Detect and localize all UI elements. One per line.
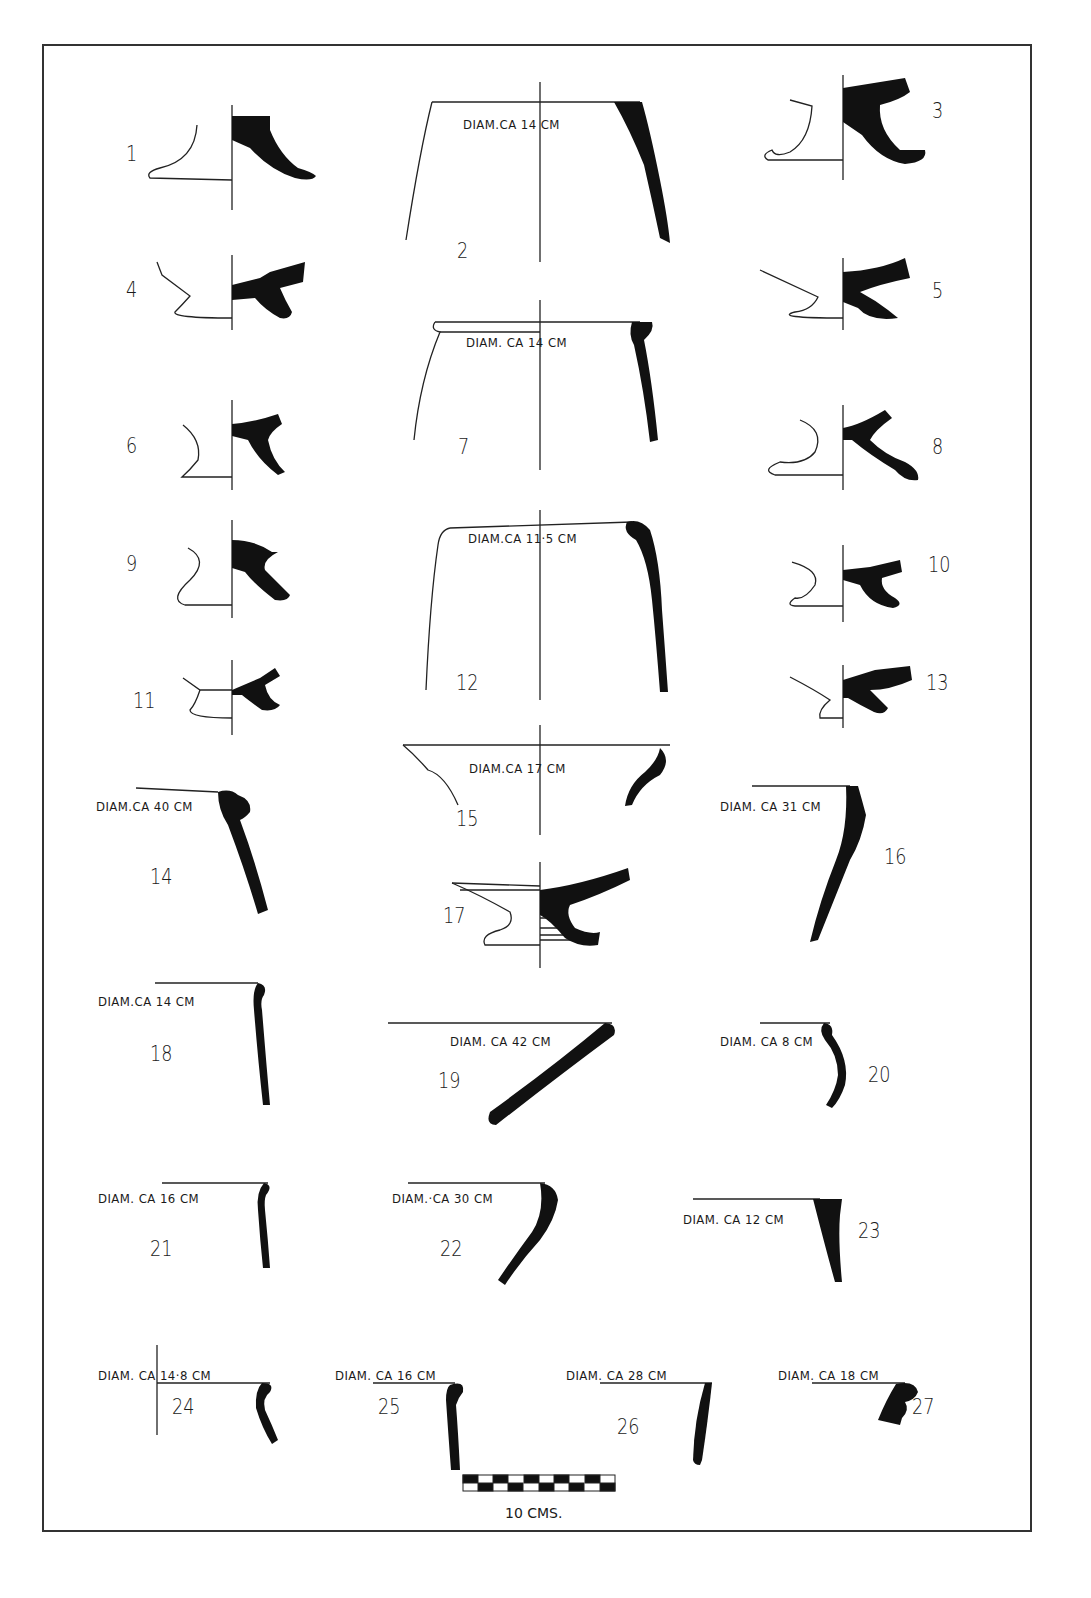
figure-number-3: 3 [932,100,943,122]
diameter-caption-16: DIAM. CA 31 CM [720,800,821,813]
profile-10 [790,545,902,622]
profile-9 [178,520,290,618]
figure-number-5: 5 [932,280,943,302]
diameter-caption-7: DIAM. CA 14 CM [466,336,567,349]
profile-13 [790,665,912,728]
figure-number-9: 9 [126,553,137,575]
diameter-caption-14: DIAM.CA 40 CM [96,800,193,813]
diameter-caption-21: DIAM. CA 16 CM [98,1192,199,1205]
figure-number-6: 6 [126,435,137,457]
diameter-caption-22: DIAM.·CA 30 CM [392,1192,493,1205]
diameter-caption-20: DIAM. CA 8 CM [720,1035,813,1048]
profile-7 [414,300,658,470]
figure-number-21: 21 [150,1238,172,1260]
diameter-caption-24: DIAM. CA 14·8 CM [98,1369,211,1382]
profile-17 [452,862,630,968]
diameter-caption-26: DIAM. CA 28 CM [566,1369,667,1382]
figure-number-15: 15 [456,808,478,830]
profile-1 [149,105,316,210]
figure-number-23: 23 [858,1220,880,1242]
profile-8 [769,405,919,490]
figure-number-16: 16 [884,846,906,868]
figure-number-18: 18 [150,1043,172,1065]
figure-number-26: 26 [617,1416,639,1438]
figure-number-27: 27 [912,1396,934,1418]
profile-4 [157,255,305,330]
profile-6 [182,400,285,490]
diameter-caption-12: DIAM.CA 11·5 CM [468,532,577,545]
figure-number-19: 19 [438,1070,460,1092]
figure-number-7: 7 [458,436,469,458]
profile-11 [183,660,280,735]
diameter-caption-15: DIAM.CA 17 CM [469,762,566,775]
figure-number-13: 13 [926,672,948,694]
scale-bar-label: 10 CMS. [505,1505,562,1521]
figure-number-17: 17 [443,905,465,927]
profile-2 [406,82,670,262]
figure-number-4: 4 [126,279,137,301]
diameter-caption-23: DIAM. CA 12 CM [683,1213,784,1226]
diameter-caption-27: DIAM. CA 18 CM [778,1369,879,1382]
diameter-caption-18: DIAM.CA 14 CM [98,995,195,1008]
figure-number-14: 14 [150,866,172,888]
figure-number-11: 11 [133,690,155,712]
figure-number-24: 24 [172,1396,194,1418]
figure-number-12: 12 [456,672,478,694]
figure-number-8: 8 [932,436,943,458]
figure-number-2: 2 [457,240,468,262]
figure-number-1: 1 [126,143,137,165]
figure-number-25: 25 [378,1396,400,1418]
scale-bar [463,1475,615,1491]
figure-number-10: 10 [928,554,950,576]
diameter-caption-25: DIAM. CA 16 CM [335,1369,436,1382]
figure-number-22: 22 [440,1238,462,1260]
profile-27 [812,1383,918,1425]
profile-5 [760,258,910,330]
profile-15 [403,725,670,835]
diameter-caption-2: DIAM.CA 14 CM [463,118,560,131]
diameter-caption-19: DIAM. CA 42 CM [450,1035,551,1048]
figure-number-20: 20 [868,1064,890,1086]
profile-3 [765,75,926,180]
